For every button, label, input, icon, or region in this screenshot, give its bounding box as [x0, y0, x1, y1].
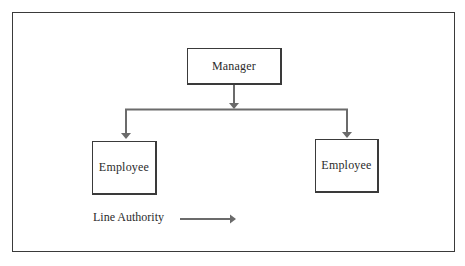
connector-lines	[0, 0, 465, 266]
employee-label: Employee	[321, 158, 371, 173]
employee-node-right: Employee	[315, 139, 379, 193]
authority-arrow-right-employee	[342, 109, 352, 138]
manager-node: Manager	[187, 48, 282, 85]
manager-label: Manager	[212, 59, 256, 74]
legend: Line Authority	[93, 210, 164, 225]
employee-label: Employee	[99, 160, 149, 175]
authority-arrow-left-employee	[121, 109, 131, 139]
legend-label: Line Authority	[93, 210, 164, 224]
employee-node-left: Employee	[92, 141, 157, 195]
authority-arrow-to-junction	[229, 85, 239, 109]
legend-arrow-icon	[180, 215, 236, 224]
